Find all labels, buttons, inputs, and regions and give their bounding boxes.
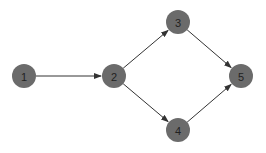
node-2[interactable]: 2: [102, 64, 126, 88]
node-4[interactable]: 4: [166, 118, 190, 142]
node-1[interactable]: 1: [12, 64, 36, 88]
edge-2-to-3: [123, 30, 168, 68]
edge-4-to-5: [187, 84, 231, 122]
node-label: 4: [175, 125, 181, 137]
graph-canvas: 12345: [0, 0, 266, 153]
node-3[interactable]: 3: [166, 10, 190, 34]
node-label: 3: [175, 17, 181, 29]
node-5[interactable]: 5: [229, 64, 253, 88]
edge-3-to-5: [187, 30, 231, 68]
node-label: 2: [111, 71, 117, 83]
node-label: 1: [21, 71, 27, 83]
edges-group: [36, 30, 231, 122]
node-label: 5: [238, 71, 244, 83]
edge-2-to-4: [123, 84, 168, 122]
